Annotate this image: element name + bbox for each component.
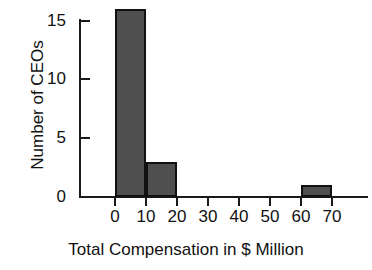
x-tick-mark: [176, 197, 178, 206]
y-tick-label: 10: [26, 70, 66, 87]
x-tick-mark: [331, 197, 333, 206]
y-tick-mark: [81, 137, 90, 139]
y-tick-label: 0: [26, 188, 66, 205]
histogram-figure: Number of CEOs 0 5 10 15 0 10 20 30 40 5…: [0, 0, 372, 270]
y-tick-label: 15: [26, 12, 66, 29]
x-tick-label: 70: [312, 208, 352, 225]
y-tick-mark: [81, 20, 90, 22]
y-tick-label: 5: [26, 129, 66, 146]
x-tick-mark: [207, 197, 209, 206]
x-tick-mark: [269, 197, 271, 206]
x-tick-mark: [238, 197, 240, 206]
x-tick-mark: [114, 197, 116, 206]
y-axis-line: [79, 19, 81, 198]
y-tick-mark: [81, 78, 90, 80]
y-tick-mark: [81, 196, 90, 198]
x-tick-mark: [300, 197, 302, 206]
histogram-bar: [146, 162, 177, 197]
y-axis-title: Number of CEOs: [28, 15, 48, 195]
x-axis-title: Total Compensation in $ Million: [0, 240, 372, 260]
histogram-bar: [115, 9, 146, 197]
histogram-bar: [301, 185, 332, 197]
x-tick-mark: [145, 197, 147, 206]
